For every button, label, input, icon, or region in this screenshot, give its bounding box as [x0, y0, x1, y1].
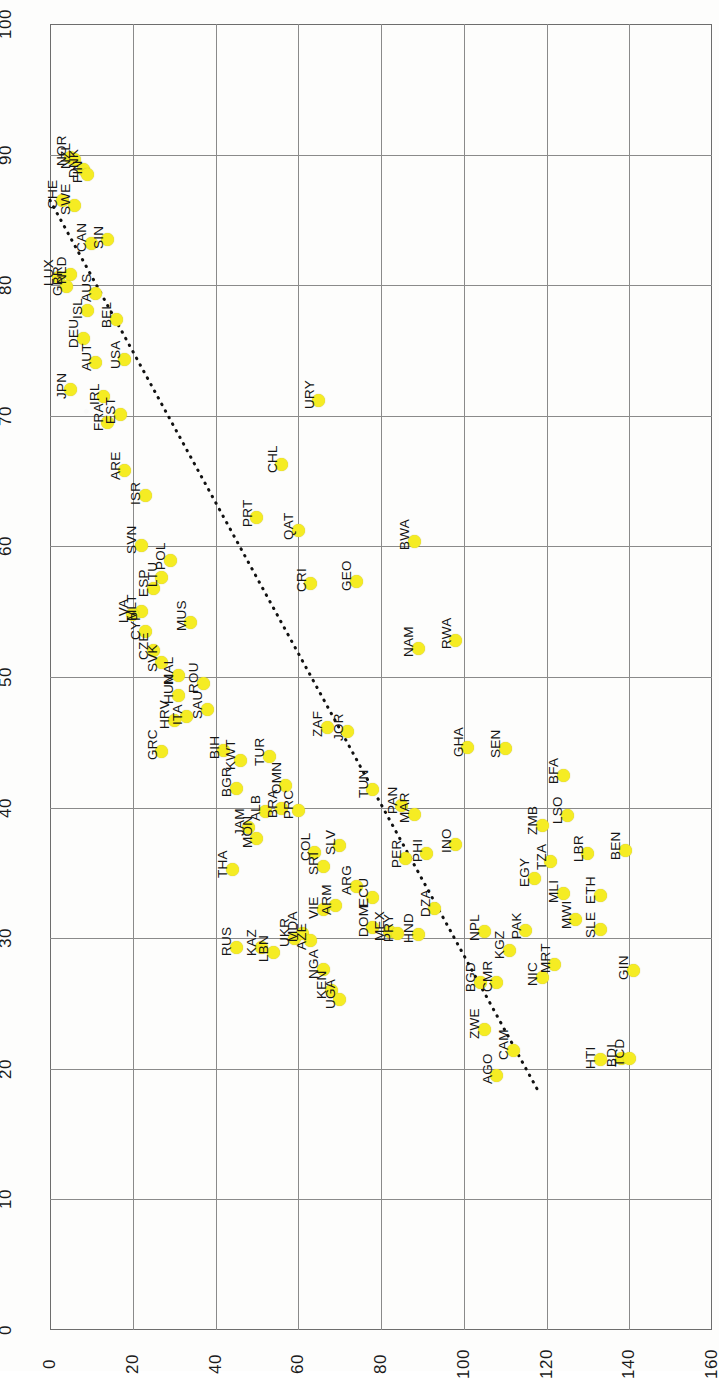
- point-label: TUR: [252, 737, 267, 765]
- point-label: BFA: [546, 758, 561, 784]
- point-label: DZA: [418, 890, 433, 918]
- y-axis-tick-30: 30: [0, 916, 16, 960]
- point-label: BIH: [207, 736, 222, 759]
- point-label: PER: [389, 839, 404, 867]
- point-label: ZMB: [525, 806, 540, 835]
- point-label: MAR: [397, 792, 412, 823]
- point-label: PRY: [381, 914, 396, 942]
- y-axis-tick-50: 50: [0, 655, 16, 699]
- point-label: NAM: [401, 627, 416, 658]
- point-label: TZA: [534, 844, 549, 870]
- point-label: ECU: [356, 878, 371, 907]
- y-axis-tick-20: 20: [0, 1047, 16, 1091]
- point-label: MUS: [174, 600, 189, 631]
- point-label: BGD: [463, 962, 478, 992]
- point-label: TCD: [612, 1039, 627, 1067]
- y-axis-tick-100: 100: [0, 2, 16, 46]
- point-label: ISR: [128, 481, 143, 504]
- point-label: GIN: [616, 955, 631, 980]
- point-label: PHI: [410, 839, 425, 862]
- point-label: SLV: [323, 829, 338, 854]
- point-label: IRL: [87, 384, 102, 406]
- point-label: ISL: [70, 298, 85, 319]
- point-label: BEN: [608, 831, 623, 859]
- point-label: CRI: [294, 568, 309, 592]
- point-label: GBR: [50, 266, 65, 296]
- y-axis-tick-70: 70: [0, 394, 16, 438]
- point-label: PAK: [509, 913, 524, 940]
- point-label: THA: [215, 850, 230, 878]
- trend-line-segment: [50, 200, 538, 1091]
- point-label: LBN: [256, 935, 271, 962]
- x-axis-tick-40: 40: [206, 1342, 226, 1382]
- point-label: RWA: [439, 618, 454, 649]
- point-label: SWE: [58, 183, 73, 214]
- point-label: AZE: [294, 923, 309, 950]
- point-label: SAU: [190, 690, 205, 718]
- point-label: ARM: [319, 884, 334, 915]
- y-axis-tick-10: 10: [0, 1177, 16, 1221]
- point-label: QAT: [281, 512, 296, 539]
- point-label: MLI: [546, 880, 561, 903]
- point-label: ETH: [583, 876, 598, 904]
- plot-area: NORNZLDNKFINCHESWECANSINLUXNLDAUSGBRISLB…: [50, 24, 712, 1330]
- trend-line: [50, 24, 712, 1330]
- point-label: TUN: [356, 770, 371, 798]
- point-label: ZWE: [467, 1008, 482, 1039]
- y-axis-tick-0: 0: [0, 1308, 16, 1352]
- point-label: GEO: [339, 560, 354, 591]
- point-label: EGY: [517, 858, 532, 887]
- x-axis-tick-0: 0: [40, 1342, 60, 1382]
- point-label: AGO: [480, 1054, 495, 1085]
- point-label: HND: [401, 913, 416, 943]
- point-label: FIN: [70, 161, 85, 183]
- point-label: ROU: [186, 662, 201, 693]
- point-label: HRV: [157, 700, 172, 729]
- point-label: SRI: [306, 852, 321, 875]
- point-label: CAM: [496, 1029, 511, 1060]
- x-axis-tick-140: 140: [619, 1342, 639, 1382]
- x-axis-tick-20: 20: [123, 1342, 143, 1382]
- point-label: PRC: [281, 790, 296, 819]
- point-label: ARG: [339, 865, 354, 895]
- y-axis-tick-40: 40: [0, 786, 16, 830]
- point-label: AUT: [79, 344, 94, 372]
- point-label: BRA: [265, 790, 280, 818]
- point-label: ESP: [136, 570, 151, 598]
- point-label: USA: [108, 340, 123, 368]
- x-axis-tick-100: 100: [454, 1342, 474, 1382]
- point-label: EST: [103, 397, 118, 424]
- point-label: JPN: [54, 373, 69, 399]
- point-label: ARE: [108, 451, 123, 479]
- point-label: BEL: [99, 302, 114, 328]
- point-label: LBR: [571, 835, 586, 862]
- point-label: DOM: [356, 905, 371, 937]
- point-label: CAN: [74, 223, 89, 252]
- point-label: KWT: [223, 739, 238, 770]
- y-axis-tick-90: 90: [0, 133, 16, 177]
- point-label: BWA: [397, 519, 412, 550]
- point-label: PRT: [240, 499, 255, 526]
- point-label: HTI: [583, 1046, 598, 1068]
- point-label: UGA: [323, 979, 338, 1009]
- x-axis-tick-160: 160: [702, 1342, 719, 1382]
- point-label: ZAF: [310, 711, 325, 737]
- point-label: NPL: [467, 914, 482, 941]
- point-label: BGR: [219, 767, 234, 797]
- point-label: CMR: [480, 960, 495, 991]
- point-label: SLE: [583, 912, 598, 938]
- y-axis-tick-60: 60: [0, 524, 16, 568]
- point-label: INO: [439, 829, 454, 854]
- point-label: JOR: [331, 713, 346, 741]
- x-axis-tick-60: 60: [288, 1342, 308, 1382]
- x-axis-tick-80: 80: [371, 1342, 391, 1382]
- point-label: GRC: [145, 730, 160, 761]
- point-label: SEN: [488, 729, 503, 757]
- x-axis-tick-120: 120: [537, 1342, 557, 1382]
- point-label: MRT: [538, 944, 553, 974]
- point-label: MWI: [559, 901, 574, 929]
- point-label: MON: [240, 816, 255, 848]
- point-label: SIN: [91, 225, 106, 248]
- point-label: RUS: [219, 927, 234, 956]
